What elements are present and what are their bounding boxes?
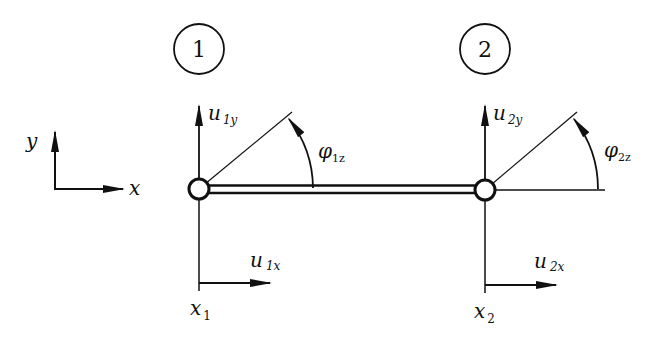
node-2-rotation-arrow: [574, 119, 598, 189]
node-1-number: 1: [192, 37, 206, 62]
beam-element: [199, 186, 485, 194]
node-2-number: 2: [478, 37, 492, 62]
node-1-hinge: [189, 179, 209, 199]
node-2-position-label: x2: [474, 299, 495, 326]
node-1: 1 u1y u1x φ1z x1: [174, 24, 345, 323]
node-1-rotation-label: φ1z: [318, 139, 345, 165]
beam-element-diagram: y x 1 u1y u1x φ1z x1: [0, 0, 660, 339]
node-2: 2 u2y u2x φ2z x2: [460, 24, 631, 326]
node-2-hinge: [475, 180, 495, 200]
node-2-rotation-label: φ2z: [604, 138, 631, 164]
node-1-position-label: x1: [190, 296, 211, 323]
node-1-ux-label: u1x: [250, 248, 281, 273]
node-2-ux-label: u2x: [534, 249, 565, 274]
global-y-label: y: [25, 129, 38, 153]
node-1-uy-label: u1y: [208, 101, 238, 127]
node-2-uy-label: u2y: [493, 101, 523, 127]
node-1-rotation-arrow: [289, 119, 313, 188]
global-x-label: x: [129, 176, 140, 200]
global-axes: y x: [25, 129, 140, 200]
